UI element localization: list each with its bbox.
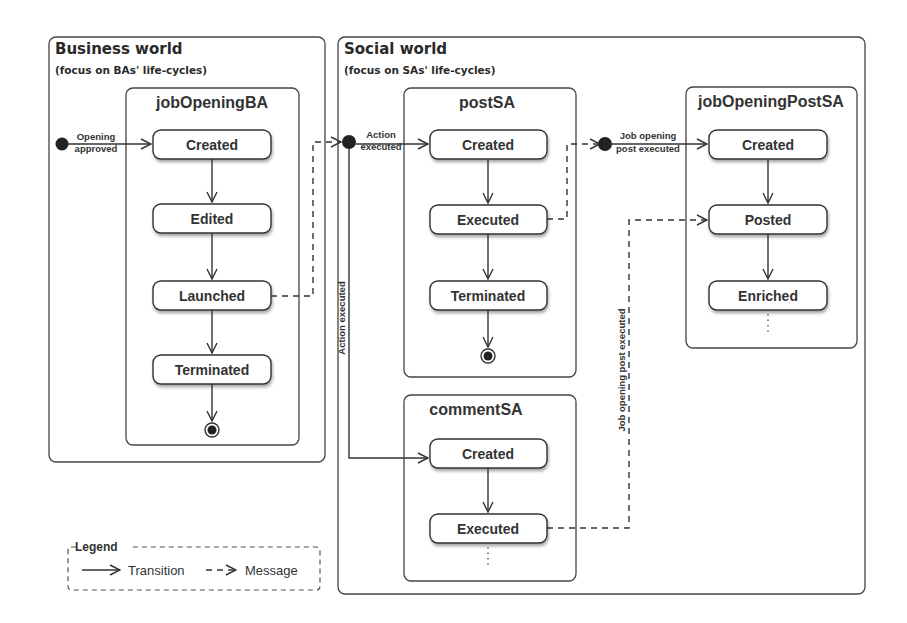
legend: Legend Transition Message (68, 540, 320, 590)
transition-arrow-action-to-comment (349, 149, 428, 458)
svg-text:Enriched: Enriched (738, 288, 798, 304)
social-world-border (338, 37, 865, 594)
message-arrow-comment-to-posted (547, 220, 707, 528)
edge-label-job-opening-post-executed-vertical: Job opening post executed (616, 308, 627, 431)
svg-text:Created: Created (462, 137, 514, 153)
state-created[interactable]: Created (430, 439, 547, 468)
state-terminated[interactable]: Terminated (153, 355, 271, 384)
state-enriched[interactable]: Enriched (709, 281, 827, 310)
machine-commentSA: commentSA Created Executed (404, 395, 576, 581)
state-created[interactable]: Created (153, 130, 271, 159)
machine-jobOpeningBA: jobOpeningBA Opening approved Created Ed… (56, 88, 300, 445)
initial-state-dot (598, 137, 612, 151)
initial-state-dot (56, 138, 69, 151)
edge-label-opening-approved-1: Opening (77, 131, 116, 142)
final-state-icon (481, 349, 495, 363)
edge-label-action-executed-1: Action (366, 129, 396, 140)
svg-text:Posted: Posted (745, 212, 792, 228)
state-launched[interactable]: Launched (153, 281, 271, 310)
machine-jobOpeningPostSA-title: jobOpeningPostSA (697, 93, 844, 110)
svg-text:Launched: Launched (179, 288, 245, 304)
machine-jobOpeningPostSA: jobOpeningPostSA Job opening post execut… (598, 87, 857, 348)
machine-jobOpeningBA-title: jobOpeningBA (155, 94, 268, 111)
state-created[interactable]: Created (709, 130, 827, 159)
business-world-subtitle: (focus on BAs' life-cycles) (55, 64, 207, 76)
svg-text:Terminated: Terminated (451, 288, 525, 304)
legend-title: Legend (75, 540, 118, 554)
message-arrow-launched-to-action (271, 142, 341, 296)
machine-postSA: postSA Action executed Created Executed … (342, 88, 576, 377)
message-arrow-executed-to-jobpost (547, 144, 600, 219)
machine-commentSA-title: commentSA (429, 401, 523, 418)
svg-text:Created: Created (462, 446, 514, 462)
initial-state-dot (342, 135, 356, 149)
machine-commentSA-border (404, 395, 576, 581)
edge-label-action-executed-2: executed (360, 141, 401, 152)
business-world-title: Business world (55, 40, 183, 58)
svg-text:Edited: Edited (191, 211, 234, 227)
state-posted[interactable]: Posted (709, 205, 827, 234)
svg-text:Terminated: Terminated (175, 362, 249, 378)
legend-transition-label: Transition (128, 563, 185, 578)
machine-postSA-title: postSA (459, 94, 515, 111)
edge-label-action-executed-vertical: Action executed (336, 281, 347, 355)
lifecycle-diagram: Business world (focus on BAs' life-cycle… (0, 0, 907, 623)
state-edited[interactable]: Edited (153, 204, 271, 233)
svg-text:Executed: Executed (457, 521, 519, 537)
social-world-title: Social world (344, 40, 447, 58)
final-state-icon (205, 423, 219, 437)
social-world-subtitle: (focus on SAs' life-cycles) (344, 64, 496, 76)
svg-text:Executed: Executed (457, 212, 519, 228)
social-world-frame: Social world (focus on SAs' life-cycles) (338, 37, 865, 594)
edge-label-job-opening-1: Job opening (620, 130, 677, 141)
state-executed[interactable]: Executed (430, 205, 547, 234)
state-executed[interactable]: Executed (430, 514, 547, 543)
svg-text:Created: Created (742, 137, 794, 153)
svg-text:Created: Created (186, 137, 238, 153)
state-terminated[interactable]: Terminated (430, 281, 547, 310)
state-created[interactable]: Created (430, 130, 547, 159)
legend-message-label: Message (245, 563, 298, 578)
